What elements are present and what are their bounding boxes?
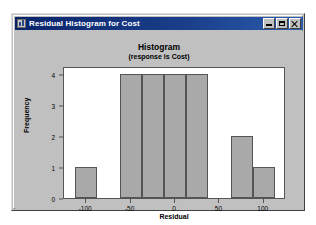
y-tick-label: 3 (51, 102, 55, 109)
window-title: Residual Histogram for Cost (29, 19, 262, 28)
histogram-chart: Histogram (response is Cost) Frequency 0… (15, 33, 303, 209)
histogram-bar (75, 167, 97, 198)
chart-title: Histogram (15, 42, 303, 52)
x-axis-title: Residual (63, 213, 285, 220)
chart-window[interactable]: Residual Histogram for Cost Histogram (r… (11, 13, 305, 211)
x-tick-label: 0 (172, 205, 176, 212)
y-axis: 01234 (15, 67, 63, 199)
minimize-icon[interactable] (263, 18, 275, 29)
bars-container (64, 68, 284, 198)
y-tick-label: 4 (51, 71, 55, 78)
chart-subtitle: (response is Cost) (15, 53, 303, 60)
x-tick-mark (130, 199, 131, 203)
x-tick-mark (263, 199, 264, 203)
title-bar[interactable]: Residual Histogram for Cost (15, 17, 303, 30)
y-tick-label: 0 (51, 196, 55, 203)
x-axis: -100-50050100 (63, 199, 285, 213)
histogram-bar (186, 74, 208, 198)
x-tick-label: -50 (125, 205, 134, 212)
x-tick-label: -100 (79, 205, 92, 212)
plot-area (63, 67, 285, 199)
y-tick-label: 1 (51, 164, 55, 171)
x-tick-label: 50 (215, 205, 222, 212)
graph-window-icon (17, 19, 26, 28)
y-tick-label: 2 (51, 133, 55, 140)
x-tick-mark (85, 199, 86, 203)
window-client-area: Histogram (response is Cost) Frequency 0… (15, 31, 303, 209)
maximize-icon[interactable] (276, 18, 288, 29)
histogram-bar (142, 74, 164, 198)
close-icon[interactable] (289, 18, 301, 29)
x-tick-mark (218, 199, 219, 203)
histogram-bar (120, 74, 142, 198)
histogram-bar (253, 167, 275, 198)
histogram-bar (231, 136, 253, 198)
x-tick-mark (174, 199, 175, 203)
histogram-bar (164, 74, 186, 198)
x-tick-label: 100 (257, 205, 268, 212)
